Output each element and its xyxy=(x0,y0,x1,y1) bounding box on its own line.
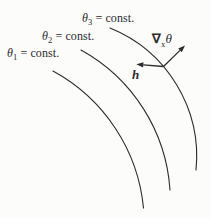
theta3-level-curve xyxy=(110,28,197,170)
h-vector-arrow xyxy=(136,62,163,67)
gradient-vector-shaft xyxy=(164,50,181,66)
theta1-const-text: = const. xyxy=(17,46,59,60)
gradient-label: ∇xθ xyxy=(152,32,172,45)
gradient-vector-arrow xyxy=(164,46,186,67)
gradient-theta-symbol: θ xyxy=(165,31,172,46)
theta2-level-curve xyxy=(81,50,170,190)
theta3-const-text: = const. xyxy=(92,11,134,25)
theta2-label: θ2 = const. xyxy=(42,30,94,43)
nabla-symbol: ∇ xyxy=(152,31,161,46)
diagram-canvas xyxy=(0,0,211,218)
h-vector-shaft xyxy=(143,65,163,67)
theta3-label: θ3 = const. xyxy=(82,12,134,25)
theta1-level-curve xyxy=(53,71,144,208)
level-curves-gradient-diagram: θ1 = const. θ2 = const. θ3 = const. ∇xθ … xyxy=(0,0,211,218)
theta1-label: θ1 = const. xyxy=(7,47,59,60)
h-label: h xyxy=(132,68,139,81)
theta2-const-text: = const. xyxy=(52,29,94,43)
